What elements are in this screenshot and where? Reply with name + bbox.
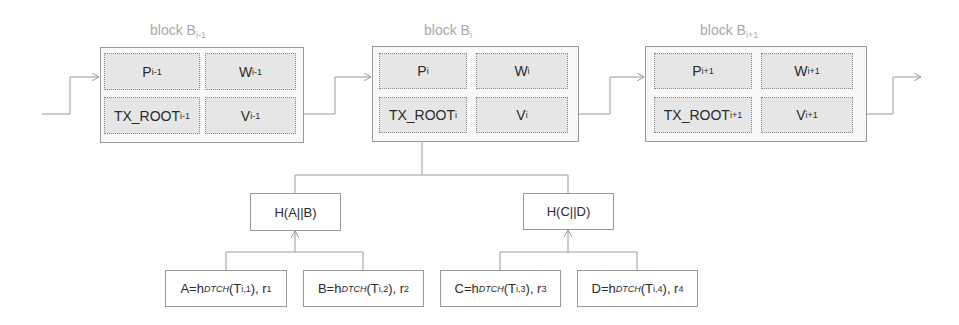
cell-txroot-current: TX_ROOTi (379, 97, 467, 133)
cell-text: V (516, 107, 525, 123)
leaf-prefix: D=h (592, 281, 616, 296)
hash-sub: DTCH (616, 284, 641, 294)
t-sub: i,3 (516, 284, 526, 294)
hash-sub: DTCH (341, 284, 366, 294)
t-sub: i,2 (379, 284, 389, 294)
cell-text: V (796, 107, 805, 123)
cell-text: W (514, 63, 527, 79)
leaf-close: ), r (663, 281, 679, 296)
cell-text: TX_ROOT (664, 107, 730, 123)
cell-txroot-next: TX_ROOTi+1 (654, 97, 752, 133)
cell-v-current: Vi (476, 97, 568, 133)
hash-sub: DTCH (204, 284, 229, 294)
cell-sub: i (455, 110, 457, 120)
cell-sub: i+1 (807, 66, 819, 76)
block-label-text: block B (424, 22, 470, 38)
cell-w-prev: Wi-1 (205, 53, 296, 90)
leaf-open: (T (504, 281, 516, 296)
cell-text: P (417, 63, 426, 79)
cell-text: P (142, 64, 151, 80)
block-label-next: block Bi+1 (700, 22, 758, 40)
node-label: H(C||D) (547, 204, 591, 219)
cell-text: TX_ROOT (114, 108, 180, 124)
cell-v-prev: Vi-1 (205, 97, 296, 134)
merkle-leaf-c: C=hDTCH(Ti,3), r3 (440, 270, 561, 307)
leaf-close: ), r (526, 281, 542, 296)
hcd-branch (500, 252, 637, 270)
merkle-leaf-d: D=hDTCH(Ti,4), r4 (577, 270, 698, 307)
cell-sub: i-1 (252, 67, 262, 77)
leaf-prefix: A=h (180, 281, 204, 296)
cell-p-current: Pi (379, 53, 467, 89)
block-label-prev: block Bi-1 (150, 22, 206, 40)
hab-branch (226, 252, 363, 270)
cell-sub: i (526, 110, 528, 120)
leaf-prefix: C=h (455, 281, 479, 296)
cell-txroot-prev: TX_ROOTi-1 (104, 97, 200, 134)
leaf-open: (T (229, 281, 241, 296)
chain-arrow-in (42, 77, 99, 114)
cell-v-next: Vi+1 (761, 97, 853, 133)
cell-sub: i (427, 66, 429, 76)
cell-text: V (241, 108, 250, 124)
cell-text: P (692, 63, 701, 79)
cell-sub: i-1 (250, 111, 260, 121)
cell-p-prev: Pi-1 (104, 53, 200, 90)
r-sub: 1 (267, 284, 272, 294)
leaf-open: (T (366, 281, 378, 296)
node-label: H(A||B) (274, 205, 316, 220)
merkle-node-hab: H(A||B) (250, 193, 341, 231)
cell-text: W (794, 63, 807, 79)
block-label-sub: i (470, 30, 472, 40)
cell-sub: i+1 (702, 66, 714, 76)
cell-text: W (239, 64, 252, 80)
cell-text: TX_ROOT (389, 107, 455, 123)
chain-arrow-out (866, 77, 921, 114)
root-branch (295, 175, 568, 193)
cell-sub: i-1 (180, 111, 190, 121)
t-sub: i,1 (241, 284, 251, 294)
cell-p-next: Pi+1 (654, 53, 752, 89)
t-sub: i,4 (653, 284, 663, 294)
merkle-leaf-b: B=hDTCH(Ti,2), r2 (303, 270, 424, 307)
cell-sub: i (528, 66, 530, 76)
chain-arrow-2-3 (578, 77, 644, 114)
merkle-node-hcd: H(C||D) (523, 193, 614, 230)
cell-sub: i+1 (806, 110, 818, 120)
block-label-text: block B (700, 22, 746, 38)
merkle-leaf-a: A=hDTCH(Ti,1), r1 (165, 270, 287, 307)
r-sub: 3 (541, 284, 546, 294)
leaf-close: ), r (251, 281, 267, 296)
cell-sub: i+1 (730, 110, 742, 120)
leaf-prefix: B=h (318, 281, 342, 296)
block-label-sub: i+1 (746, 30, 758, 40)
cell-w-next: Wi+1 (761, 53, 853, 89)
leaf-open: (T (641, 281, 653, 296)
block-label-sub: i-1 (196, 30, 206, 40)
hash-sub: DTCH (479, 284, 504, 294)
block-label-text: block B (150, 22, 196, 38)
r-sub: 2 (404, 284, 409, 294)
chain-arrow-1-2 (303, 77, 371, 114)
leaf-close: ), r (388, 281, 404, 296)
blockchain-merkle-diagram: block Bi-1 Pi-1 Wi-1 TX_ROOTi-1 Vi-1 blo… (0, 0, 959, 325)
cell-w-current: Wi (476, 53, 568, 89)
block-label-current: block Bi (424, 22, 472, 40)
r-sub: 4 (678, 284, 683, 294)
cell-sub: i-1 (152, 67, 162, 77)
